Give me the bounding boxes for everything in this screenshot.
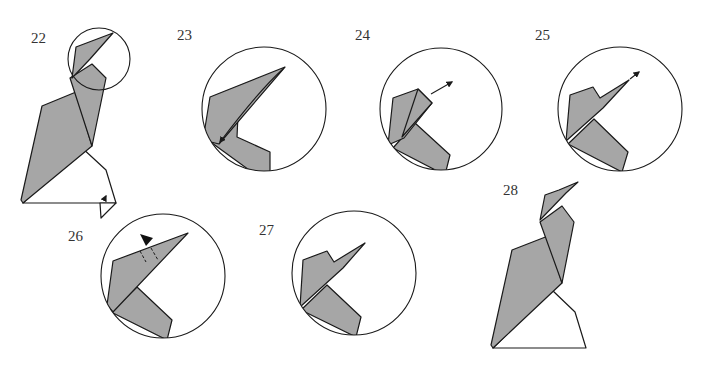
step-27-figure [292, 211, 416, 337]
step-28-figure [491, 182, 586, 348]
step-25-figure [558, 47, 682, 172]
step-23-figure [202, 47, 326, 175]
step-24-figure [380, 48, 502, 175]
push-arrow-icon [140, 234, 153, 246]
step-22-figure [21, 28, 130, 218]
step-26-figure [101, 214, 225, 340]
